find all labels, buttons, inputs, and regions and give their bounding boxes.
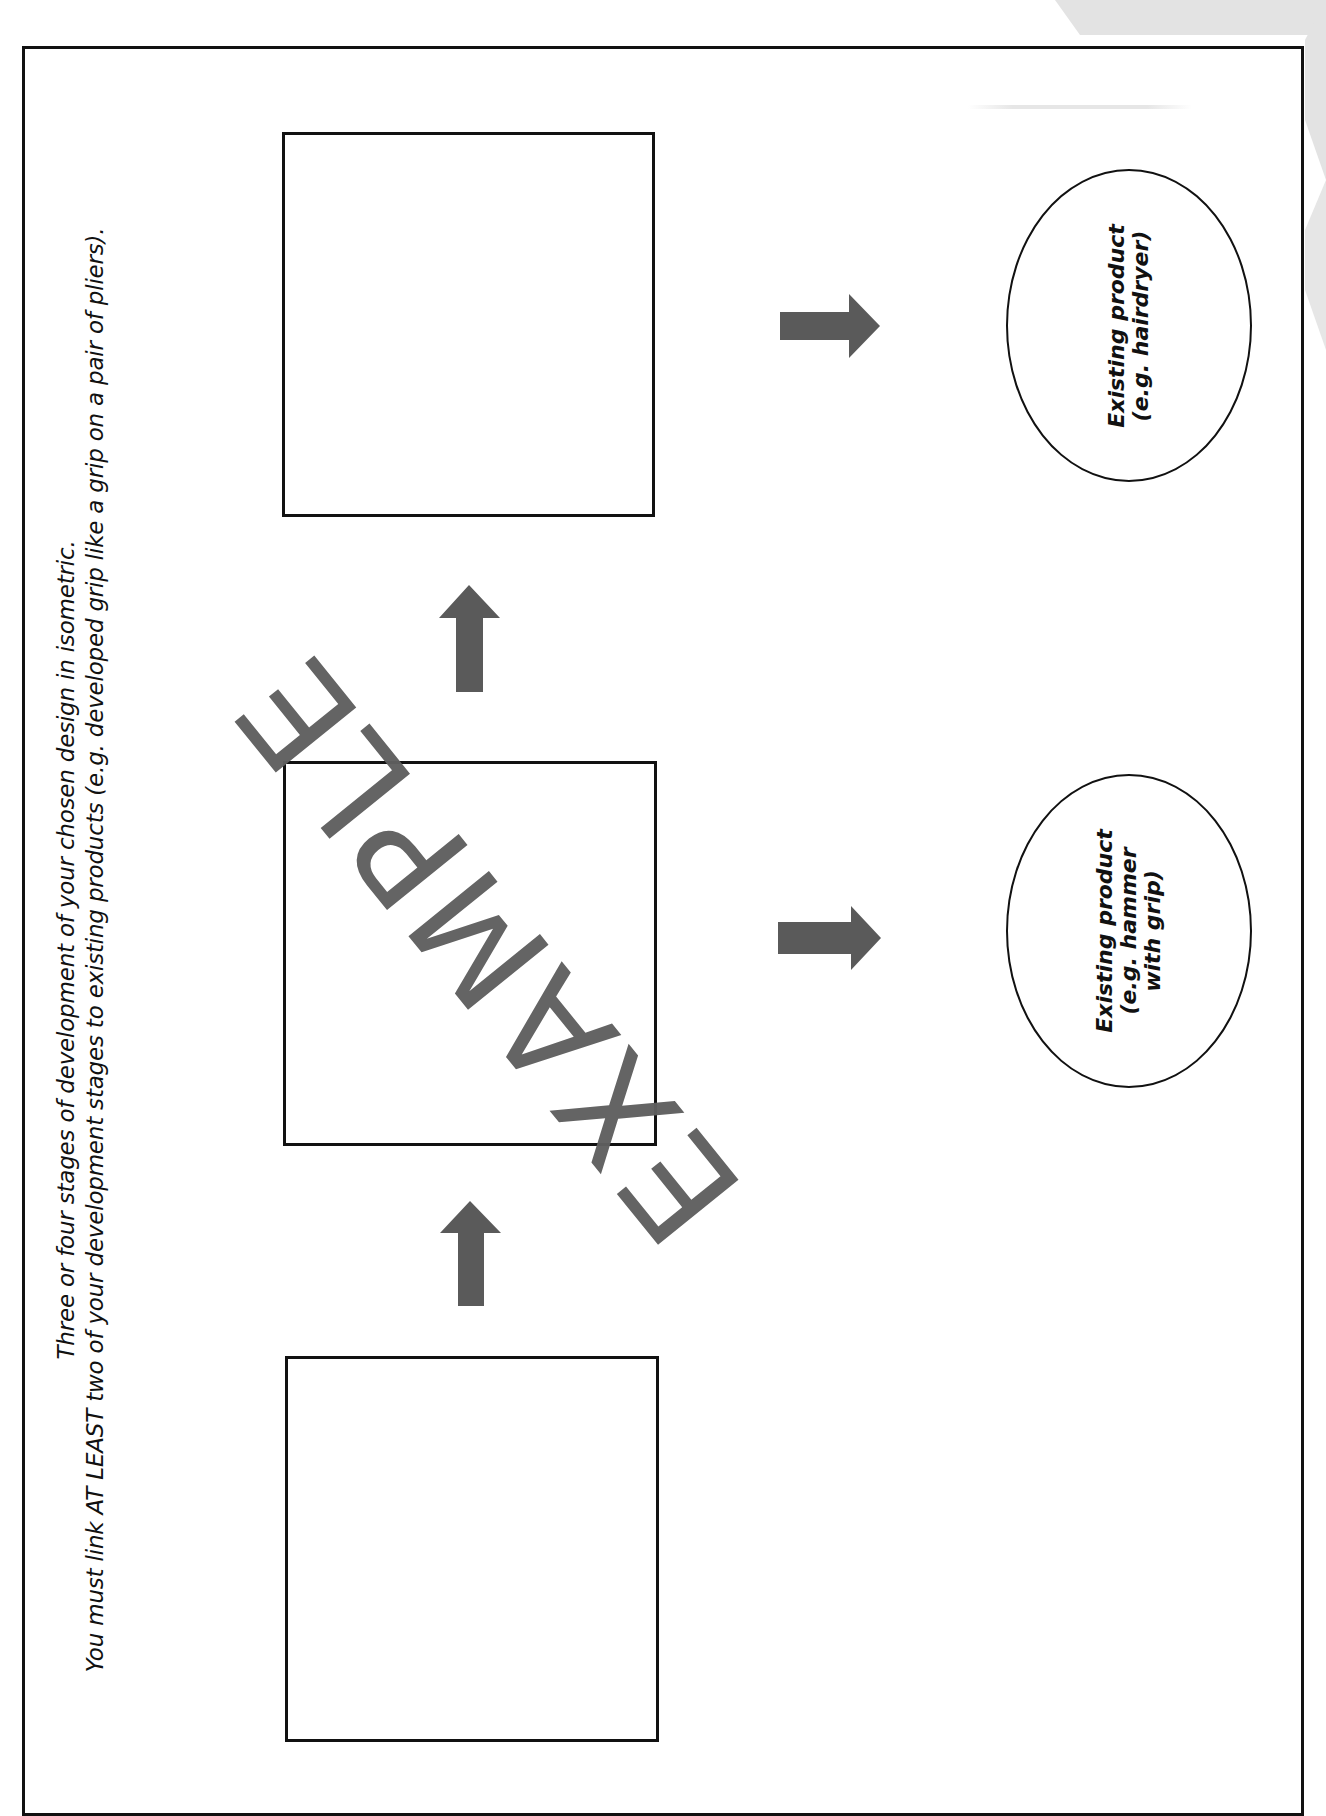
instruction-line-2: You must link AT LEAST two of your devel… xyxy=(81,100,110,1800)
instruction-line-1: Three or four stages of development of y… xyxy=(52,100,81,1800)
instructions-text: Three or four stages of development of y… xyxy=(52,100,110,1800)
existing-product-label: Existing product (e.g. hammer with grip) xyxy=(1093,829,1165,1033)
faint-scan-line xyxy=(968,105,1192,109)
stage-3-box[interactable] xyxy=(282,132,655,517)
stage-1-box[interactable] xyxy=(285,1356,659,1742)
existing-product-label: Existing product (e.g. hairdryer) xyxy=(1105,224,1153,428)
existing-product-hairdryer[interactable]: Existing product (e.g. hairdryer) xyxy=(1006,169,1252,482)
existing-product-hammer[interactable]: Existing product (e.g. hammer with grip) xyxy=(1006,774,1252,1088)
